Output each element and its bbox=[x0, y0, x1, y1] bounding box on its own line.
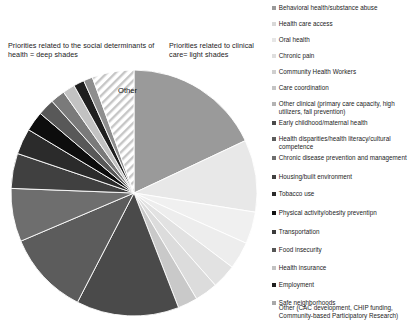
legend-swatch-icon bbox=[272, 54, 276, 58]
legend-swatch-icon bbox=[272, 156, 276, 160]
pie-chart: Other bbox=[0, 0, 270, 331]
legend-label: Health care access bbox=[279, 20, 333, 28]
legend-item[interactable]: Physical activity/obesity preventipn bbox=[272, 209, 408, 217]
legend-label: Care coordination bbox=[279, 84, 329, 92]
legend-item[interactable]: Other (CAC development, CHIP funding, Co… bbox=[272, 304, 408, 320]
legend-item[interactable]: Tobacco use bbox=[272, 190, 408, 198]
legend-label: Community Health Workers bbox=[279, 68, 356, 76]
legend-item[interactable]: Transportation bbox=[272, 228, 408, 236]
pie-slices bbox=[11, 70, 257, 316]
legend-swatch-icon bbox=[272, 266, 276, 270]
legend-swatch-icon bbox=[272, 283, 276, 287]
legend-label: Transportation bbox=[279, 228, 320, 236]
legend-swatch-icon bbox=[272, 102, 276, 106]
legend-swatch-icon bbox=[272, 22, 276, 26]
legend-item[interactable]: Chronic disease prevention and managemen… bbox=[272, 154, 408, 162]
legend-item[interactable]: Care coordination bbox=[272, 84, 408, 92]
legend-item[interactable]: Oral health bbox=[272, 36, 408, 44]
legend-label: Tobacco use bbox=[279, 190, 315, 198]
legend-label: Oral health bbox=[279, 36, 310, 44]
legend-label: Housing/built environment bbox=[279, 173, 352, 181]
legend-item[interactable]: Health care access bbox=[272, 20, 408, 28]
legend-swatch-icon bbox=[272, 192, 276, 196]
legend-item[interactable]: Community Health Workers bbox=[272, 68, 408, 76]
pie-chart-svg bbox=[0, 0, 270, 331]
legend-label: Food insecurity bbox=[279, 246, 322, 254]
legend-label: Other (CAC development, CHIP funding, Co… bbox=[279, 304, 408, 320]
legend-label: Behavioral health/substance abuse bbox=[279, 4, 378, 12]
slice-label-other: Other bbox=[118, 86, 137, 95]
legend-swatch-icon bbox=[272, 121, 276, 125]
legend-item[interactable]: Early childhood/maternal health bbox=[272, 119, 408, 127]
legend-label: Early childhood/maternal health bbox=[279, 119, 368, 127]
legend-swatch-icon bbox=[272, 230, 276, 234]
legend-label: Employment bbox=[279, 281, 314, 289]
legend-item[interactable]: Health disparities/health literacy/cultu… bbox=[272, 135, 408, 151]
legend-swatch-icon bbox=[272, 211, 276, 215]
legend-label: Physical activity/obesity preventipn bbox=[279, 209, 377, 217]
legend-swatch-icon bbox=[272, 137, 276, 141]
legend-item[interactable]: Chronic pain bbox=[272, 52, 408, 60]
chart-canvas: Priorities related to the social determi… bbox=[0, 0, 408, 331]
legend-label: Health disparities/health literacy/cultu… bbox=[279, 135, 408, 151]
legend-item[interactable]: Behavioral health/substance abuse bbox=[272, 4, 408, 12]
legend-swatch-icon bbox=[272, 86, 276, 90]
legend-item[interactable]: Health insurance bbox=[272, 264, 408, 272]
legend-item[interactable]: Other clinical (primary care capacity, h… bbox=[272, 100, 408, 116]
legend-swatch-icon bbox=[272, 70, 276, 74]
legend-label: Other clinical (primary care capacity, h… bbox=[279, 100, 408, 116]
legend-label: Health insurance bbox=[279, 264, 327, 272]
legend-item[interactable]: Housing/built environment bbox=[272, 173, 408, 181]
legend-swatch-icon bbox=[272, 175, 276, 179]
legend-swatch-icon bbox=[272, 248, 276, 252]
legend-item[interactable]: Employment bbox=[272, 281, 408, 289]
legend-item[interactable]: Food insecurity bbox=[272, 246, 408, 254]
legend: Behavioral health/substance abuseHealth … bbox=[272, 0, 408, 331]
legend-swatch-icon bbox=[272, 38, 276, 42]
legend-swatch-icon bbox=[272, 6, 276, 10]
legend-label: Chronic pain bbox=[279, 52, 315, 60]
legend-label: Chronic disease prevention and managemen… bbox=[279, 154, 407, 162]
